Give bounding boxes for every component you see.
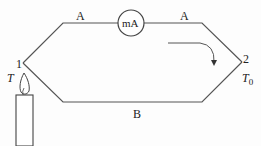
circuit-svg: A mA A B 1 2 T T0 <box>0 0 261 146</box>
arrowhead-icon <box>211 60 217 66</box>
wire-b <box>23 62 242 102</box>
current-arrow-icon <box>168 43 214 62</box>
wire-a-left <box>23 23 118 63</box>
hot-temperature-label: T <box>7 71 15 85</box>
wire-label-a-left: A <box>76 9 85 23</box>
thermocouple-diagram: A mA A B 1 2 T T0 <box>0 0 261 146</box>
candle-flame-icon <box>20 73 29 94</box>
wire-label-b: B <box>133 107 141 121</box>
candle-body <box>16 95 33 146</box>
junction-label-2: 2 <box>243 52 249 66</box>
cold-temperature-label: T0 <box>242 71 254 87</box>
meter-label: mA <box>122 17 139 29</box>
wire-label-a-right: A <box>180 9 189 23</box>
junction-label-1: 1 <box>16 57 22 71</box>
